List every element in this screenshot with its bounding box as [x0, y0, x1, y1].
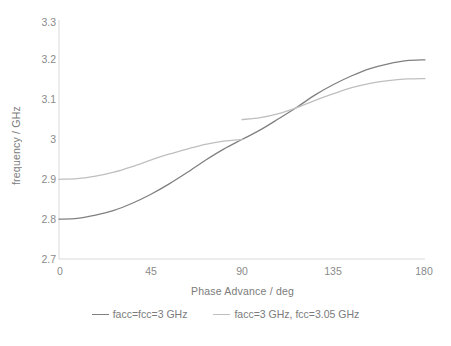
legend-item: facc=fcc=3 GHz	[92, 308, 188, 320]
y-tick-label: 2.9	[22, 173, 56, 185]
x-tick-label: 180	[404, 265, 444, 277]
y-tick-label: 2.8	[22, 213, 56, 225]
x-axis-title: Phase Advance / deg	[60, 285, 425, 297]
series-line-facc-fcc-detuned	[59, 79, 425, 180]
legend-line-swatch-icon	[213, 314, 230, 315]
x-tick-label: 90	[222, 265, 262, 277]
y-tick-label: 3	[22, 133, 56, 145]
y-tick-label: 3.3	[22, 16, 56, 28]
series-line-facc-eq-fcc	[59, 60, 425, 219]
legend-item: facc=3 GHz, fcc=3.05 GHz	[213, 308, 359, 320]
chart-legend: facc=fcc=3 GHz facc=3 GHz, fcc=3.05 GHz	[0, 308, 451, 320]
x-tick-label: 45	[131, 265, 171, 277]
x-tick-label: 0	[40, 265, 80, 277]
line-chart: frequency / GHz 3.3 3.2 3.1 3 2.9 2.8 2.…	[0, 0, 451, 346]
y-tick-label: 3.2	[22, 53, 56, 65]
y-tick-label: 3.1	[22, 93, 56, 105]
legend-line-swatch-icon	[92, 314, 109, 315]
legend-item-label: facc=3 GHz, fcc=3.05 GHz	[234, 308, 359, 320]
y-tick-label: 2.7	[22, 253, 56, 265]
x-tick-label: 135	[313, 265, 353, 277]
legend-item-label: facc=fcc=3 GHz	[113, 308, 188, 320]
